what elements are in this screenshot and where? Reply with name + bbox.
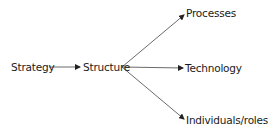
node-strategy: Strategy [11,61,54,73]
node-technology: Technology [185,62,242,74]
node-processes: Processes [186,7,236,19]
arrow-structure-technology [122,67,183,68]
arrow-structure-processes [122,15,184,67]
node-individuals-roles: Individuals/roles [186,114,268,126]
arrow-structure-individuals [122,67,184,119]
node-structure: Structure [83,61,130,73]
